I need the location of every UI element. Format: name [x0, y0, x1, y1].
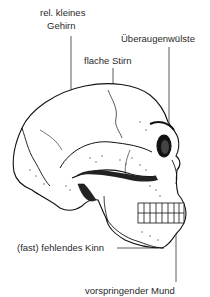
label-brow-ridges: Überaugenwülste [121, 33, 195, 44]
label-mouth: vorspringender Mund [85, 285, 175, 296]
teeth [138, 203, 184, 223]
label-brain-line1: rel. kleines [40, 7, 85, 18]
label-chin: (fast) fehlendes Kinn [17, 242, 104, 253]
label-brain-line2: Gehirn [47, 20, 76, 31]
label-forehead: flache Stirn [84, 55, 132, 66]
